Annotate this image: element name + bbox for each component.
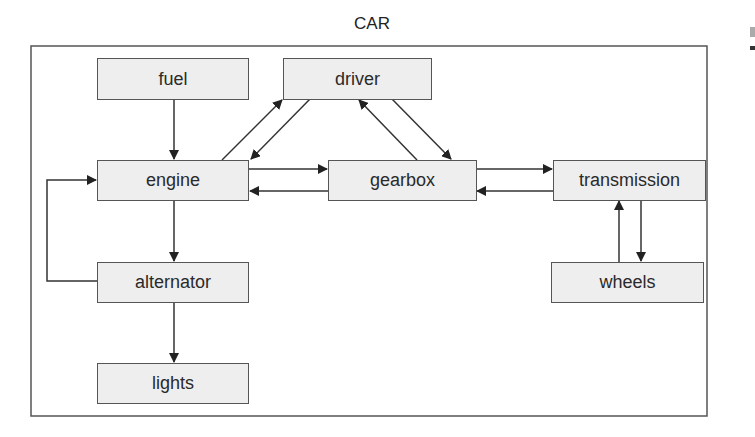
node-gearbox: gearbox bbox=[328, 160, 477, 201]
clipped-text-fragment bbox=[750, 27, 755, 37]
edge-driver-gearbox bbox=[392, 99, 451, 159]
diagram-title: CAR bbox=[322, 14, 422, 34]
edge-alternator-engine bbox=[47, 180, 97, 281]
car-frame bbox=[31, 46, 707, 416]
node-lights: lights bbox=[97, 363, 249, 404]
edge-engine-driver bbox=[222, 100, 282, 160]
edge-driver-engine bbox=[251, 99, 310, 159]
node-transmission: transmission bbox=[553, 160, 706, 201]
node-alternator: alternator bbox=[97, 262, 249, 303]
edge-gearbox-driver bbox=[359, 100, 417, 160]
node-wheels: wheels bbox=[551, 262, 704, 303]
clipped-text-fragment bbox=[750, 46, 755, 50]
node-fuel: fuel bbox=[97, 58, 249, 100]
node-driver: driver bbox=[283, 58, 432, 100]
node-engine: engine bbox=[97, 160, 249, 201]
